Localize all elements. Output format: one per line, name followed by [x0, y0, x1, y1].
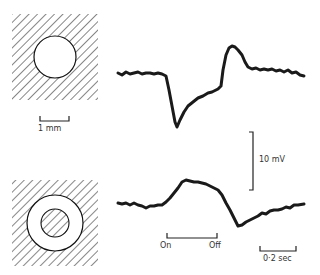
voltage-scale-label: 10 mV	[259, 155, 285, 164]
distance-scale-label: 1 mm	[38, 124, 61, 133]
figure-canvas	[0, 0, 320, 275]
center-response-trace	[118, 46, 304, 127]
voltage-scale-bar	[249, 132, 253, 190]
mm-scale-bar	[40, 116, 69, 121]
annulus-stimulus-diagram	[12, 180, 98, 266]
time-scale-bar	[260, 246, 296, 251]
stimulus-timing-bar	[167, 233, 217, 238]
center-spot-stimulus-diagram	[12, 14, 98, 100]
annulus-response-trace	[118, 180, 304, 226]
stimulus-on-label: On	[160, 241, 171, 250]
stimulus-off-label: Off	[209, 241, 221, 250]
time-scale-label: 0·2 sec	[263, 254, 292, 263]
